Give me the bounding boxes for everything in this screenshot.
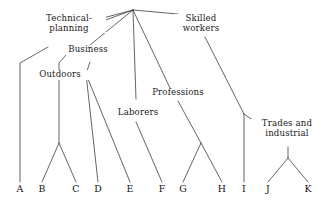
technical-planning-line-1: Technical-: [46, 13, 92, 23]
cluster-label-professions: Professions: [143, 88, 213, 98]
leaf-label-d: D: [92, 183, 104, 194]
branch-root-laborers: [133, 10, 136, 99]
branch-outdoors-to-c: [59, 143, 76, 182]
leaf-label-c: C: [70, 183, 82, 194]
leaf-label-e: E: [124, 183, 136, 194]
skilled-workers-line-2: workers: [183, 23, 220, 33]
trades-industrial-line-1: Trades and: [262, 118, 312, 128]
branch-technical-planning-to-outdoors: [59, 47, 73, 143]
cluster-label-trades-industrial: Trades and industrial: [250, 119, 324, 138]
leaf-label-g: G: [177, 183, 189, 194]
dendrogram-figure: Technical- planning Outdoors Business La…: [0, 0, 329, 200]
skilled-workers-line-1: Skilled: [186, 13, 217, 23]
leaf-label-b: B: [36, 183, 48, 194]
leaf-label-j: J: [262, 183, 274, 194]
leaf-label-h: H: [216, 183, 228, 194]
cluster-label-technical-planning: Technical- planning: [32, 14, 106, 33]
leaf-label-a: A: [14, 183, 26, 194]
branch-professions-to-g: [183, 143, 201, 182]
branch-technical-planning-to-a: [20, 47, 48, 182]
branch-professions-to-h: [201, 143, 222, 182]
branch-trades-to-j: [268, 158, 288, 182]
branch-outdoors-to-b: [42, 143, 59, 182]
leaf-label-k: K: [302, 183, 314, 194]
leaf-label-f: F: [156, 183, 168, 194]
trades-industrial-line-2: industrial: [265, 128, 308, 138]
cluster-label-business: Business: [60, 45, 116, 55]
cluster-label-skilled-workers: Skilled workers: [170, 14, 232, 33]
leaf-label-i: I: [238, 183, 250, 194]
branch-root-professions: [133, 10, 170, 88]
cluster-label-outdoors: Outdoors: [30, 70, 90, 80]
branch-professions-junction: [178, 101, 201, 143]
branch-skilled-workers-descent: [205, 37, 244, 114]
branch-laborers-to-f: [136, 122, 162, 182]
branch-business-to-e: [86, 74, 130, 182]
branch-business-to-d: [86, 74, 98, 182]
cluster-label-laborers: Laborers: [110, 108, 166, 118]
branch-trades-to-k: [288, 158, 308, 182]
technical-planning-line-2: planning: [49, 23, 88, 33]
